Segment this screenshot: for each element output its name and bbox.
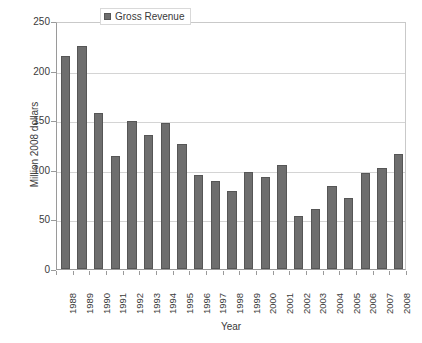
x-tick-label-1990: 1990 — [102, 293, 112, 314]
x-tick-label-1992: 1992 — [135, 293, 145, 314]
x-tick-mark-2001 — [273, 271, 274, 275]
bar-2005[interactable] — [344, 198, 353, 269]
x-tick-mark-1992 — [123, 271, 124, 275]
x-tick-mark-2000 — [256, 271, 257, 275]
x-tick-mark-2007 — [373, 271, 374, 275]
y-tick-label-150: 150 — [14, 116, 50, 126]
x-tick-label-1997: 1997 — [218, 293, 228, 314]
x-tick-mark-2008 — [389, 271, 390, 275]
x-tick-mark-2002 — [289, 271, 290, 275]
x-tick-label-2008: 2008 — [402, 293, 412, 314]
y-axis-tick-labels: 050100150200250 — [14, 0, 50, 343]
x-tick-mark-1996 — [189, 271, 190, 275]
x-tick-label-2007: 2007 — [385, 293, 395, 314]
x-tick-mark-2003 — [306, 271, 307, 275]
x-tick-mark-1993 — [139, 271, 140, 275]
x-tick-mark-1997 — [206, 271, 207, 275]
x-tick-label-2005: 2005 — [352, 293, 362, 314]
x-tick-mark-2006 — [356, 271, 357, 275]
x-tick-mark-end — [406, 271, 407, 275]
bar-1997[interactable] — [211, 181, 220, 269]
legend-label: Gross Revenue — [115, 11, 184, 22]
bar-1990[interactable] — [94, 113, 103, 269]
x-tick-label-2006: 2006 — [368, 293, 378, 314]
bar-2004[interactable] — [327, 186, 336, 269]
bar-1998[interactable] — [227, 191, 236, 269]
x-tick-mark-1999 — [239, 271, 240, 275]
x-tick-mark-1991 — [106, 271, 107, 275]
bar-1994[interactable] — [161, 123, 170, 269]
x-tick-mark-2004 — [323, 271, 324, 275]
plot-area — [56, 22, 406, 270]
x-tick-label-2003: 2003 — [318, 293, 328, 314]
y-tick-label-0: 0 — [14, 265, 50, 275]
x-tick-mark-1995 — [173, 271, 174, 275]
x-tick-mark-1998 — [223, 271, 224, 275]
x-tick-label-2001: 2001 — [285, 293, 295, 314]
x-tick-label-2004: 2004 — [335, 293, 345, 314]
x-axis-tick-labels: 1988198919901991199219931994199519961997… — [56, 276, 406, 316]
x-tick-label-1999: 1999 — [252, 293, 262, 314]
x-tick-label-1994: 1994 — [168, 293, 178, 314]
x-tick-label-1989: 1989 — [85, 293, 95, 314]
bar-1992[interactable] — [127, 121, 136, 269]
x-tick-label-2002: 2002 — [302, 293, 312, 314]
x-tick-mark-1989 — [73, 271, 74, 275]
bar-2000[interactable] — [261, 177, 270, 269]
bar-1996[interactable] — [194, 175, 203, 269]
bar-2002[interactable] — [294, 216, 303, 269]
y-tick-label-50: 50 — [14, 215, 50, 225]
y-tick-label-250: 250 — [14, 17, 50, 27]
legend-swatch-icon — [104, 13, 111, 20]
x-tick-mark-1988 — [56, 271, 57, 275]
bar-2006[interactable] — [361, 173, 370, 269]
x-tick-label-1996: 1996 — [202, 293, 212, 314]
bar-2001[interactable] — [277, 165, 286, 269]
x-tick-mark-2005 — [339, 271, 340, 275]
x-axis-title: Year — [56, 321, 406, 332]
bar-2008[interactable] — [394, 154, 403, 269]
x-tick-mark-1994 — [156, 271, 157, 275]
x-tick-label-1988: 1988 — [68, 293, 78, 314]
bar-series-gross-revenue — [57, 23, 405, 269]
bar-1988[interactable] — [61, 56, 70, 269]
bar-1989[interactable] — [77, 46, 86, 269]
y-tick-label-200: 200 — [14, 67, 50, 77]
x-tick-label-1995: 1995 — [185, 293, 195, 314]
x-tick-label-1993: 1993 — [152, 293, 162, 314]
bar-2003[interactable] — [311, 209, 320, 270]
legend: Gross Revenue — [100, 8, 191, 25]
x-tick-label-1991: 1991 — [118, 293, 128, 314]
x-tick-mark-1990 — [89, 271, 90, 275]
bar-1993[interactable] — [144, 135, 153, 269]
bar-1999[interactable] — [244, 172, 253, 269]
bar-1991[interactable] — [111, 156, 120, 269]
y-tick-label-100: 100 — [14, 166, 50, 176]
x-tick-label-1998: 1998 — [235, 293, 245, 314]
bar-1995[interactable] — [177, 144, 186, 269]
bar-chart: Million 2008 dollars 050100150200250 Gro… — [0, 0, 422, 343]
bar-2007[interactable] — [377, 168, 386, 269]
x-tick-label-2000: 2000 — [268, 293, 278, 314]
